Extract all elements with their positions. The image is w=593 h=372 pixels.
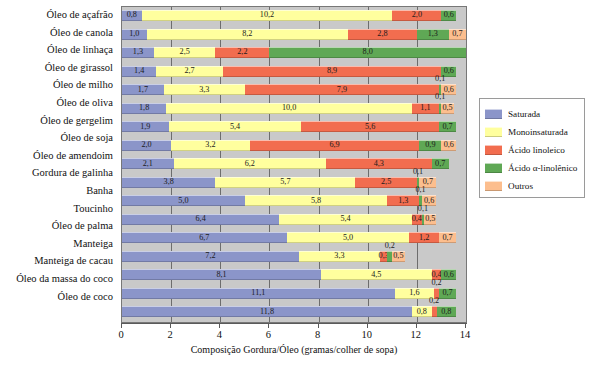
stacked-bar[interactable]: 2,03,26,90,90,6 (122, 140, 456, 151)
bar-segment[interactable]: 7,9 (245, 84, 439, 95)
stacked-bar[interactable]: 11,80,80,20,8 (122, 306, 456, 317)
bar-row[interactable]: 1,08,22,81,30,7 (122, 26, 466, 45)
bar-segment[interactable]: 0,9 (419, 140, 441, 151)
bar-segment[interactable]: 0,5 (441, 103, 453, 114)
legend-item[interactable]: Ácido α-linolênico (485, 159, 580, 177)
bar-segment[interactable]: 0,6 (441, 10, 456, 21)
bar-segment[interactable]: 1,4 (122, 66, 156, 77)
bar-segment[interactable]: 1,7 (122, 84, 164, 95)
stacked-bar[interactable]: 1,42,78,90,6 (122, 66, 456, 77)
stacked-bar[interactable]: 6,45,40,40,10,5 (122, 214, 437, 225)
bar-segment[interactable]: 0,7 (439, 121, 456, 132)
bar-segment[interactable]: 11,8 (122, 306, 412, 317)
bar-segment[interactable]: 0,4 (412, 214, 422, 225)
stacked-bar[interactable]: 1,95,45,60,7 (122, 121, 456, 132)
bar-segment[interactable]: 1,3 (122, 47, 154, 58)
stacked-bar[interactable]: 1,810,01,10,10,5 (122, 103, 454, 114)
bar-segment[interactable]: 2,2 (215, 47, 269, 58)
bar-segment[interactable]: 1,3 (417, 29, 449, 40)
bar-segment[interactable]: 4,5 (321, 269, 432, 280)
bar-segment[interactable]: 6,9 (250, 140, 420, 151)
bar-segment[interactable]: 0,8 (122, 10, 142, 21)
bar-row[interactable]: 1,95,45,60,7 (122, 118, 466, 137)
bar-row[interactable]: 6,45,40,40,10,5 (122, 211, 466, 230)
bar-segment[interactable]: 5,6 (301, 121, 439, 132)
bar-segment[interactable]: 1,8 (122, 103, 166, 114)
bar-segment[interactable]: 10,2 (142, 10, 393, 21)
bar-segment[interactable]: 0,7 (439, 288, 456, 299)
bar-segment[interactable]: 2,5 (154, 47, 215, 58)
stacked-bar[interactable]: 8,14,50,40,6 (122, 269, 456, 280)
bar-segment[interactable]: 5,8 (245, 195, 388, 206)
bar-segment[interactable]: 2,0 (122, 140, 171, 151)
bar-segment[interactable]: 6,2 (174, 158, 326, 169)
bar-segment[interactable]: 0,8 (412, 306, 432, 317)
bar-segment[interactable]: 0,6 (441, 140, 456, 151)
bar-segment[interactable]: 0,5 (392, 251, 404, 262)
stacked-bar[interactable]: 11,11,60,20,7 (122, 288, 456, 299)
bar-value-label: 5,4 (230, 123, 240, 131)
bar-row[interactable]: 1,32,52,28,0 (122, 44, 466, 63)
stacked-bar[interactable]: 6,75,01,20,7 (122, 232, 456, 243)
bar-segment[interactable]: 1,0 (122, 29, 147, 40)
bar-segment[interactable]: 5,7 (215, 177, 355, 188)
legend-item[interactable]: Outros (485, 177, 580, 195)
bar-row[interactable]: 8,14,50,40,6 (122, 266, 466, 285)
bar-segment[interactable]: 8,9 (223, 66, 442, 77)
bar-segment[interactable]: 2,0 (392, 10, 441, 21)
bar-segment[interactable]: 1,2 (409, 232, 438, 243)
bar-row[interactable]: 5,05,81,30,10,6 (122, 192, 466, 211)
bar-segment[interactable]: 0,5 (424, 214, 436, 225)
legend-item[interactable]: Monoinsaturada (485, 123, 580, 141)
stacked-bar[interactable]: 1,08,22,81,30,7 (122, 29, 466, 40)
bar-segment[interactable]: 3,3 (164, 84, 245, 95)
bar-segment[interactable]: 10,0 (166, 103, 412, 114)
bar-segment[interactable]: 0,6 (441, 269, 456, 280)
bar-row[interactable]: 2,03,26,90,90,6 (122, 137, 466, 156)
bar-row[interactable]: 6,75,01,20,7 (122, 229, 466, 248)
bar-segment[interactable]: 5,0 (122, 195, 245, 206)
bar-segment[interactable]: 0,7 (449, 29, 466, 40)
bar-segment[interactable]: 3,3 (299, 251, 380, 262)
legend-item[interactable]: Saturada (485, 105, 580, 123)
bar-row[interactable]: 7,23,30,30,20,5 (122, 248, 466, 267)
bar-segment[interactable]: 7,2 (122, 251, 299, 262)
stacked-bar[interactable]: 1,32,52,28,0 (122, 47, 466, 58)
stacked-bar[interactable]: 5,05,81,30,10,6 (122, 195, 437, 206)
bar-segment[interactable]: 3,2 (171, 140, 250, 151)
bar-row[interactable]: 0,810,22,00,6 (122, 7, 466, 26)
bar-segment[interactable]: 5,4 (169, 121, 302, 132)
bar-segment[interactable]: 0,7 (432, 158, 449, 169)
bar-row[interactable]: 1,73,37,90,10,6 (122, 81, 466, 100)
bar-segment[interactable]: 2,8 (348, 29, 417, 40)
bar-row[interactable]: 1,42,78,90,6 (122, 63, 466, 82)
bar-segment[interactable]: 6,4 (122, 214, 279, 225)
bar-segment[interactable]: 8,0 (269, 47, 466, 58)
legend-label: Outros (508, 181, 533, 191)
bar-segment[interactable]: 0,7 (439, 232, 456, 243)
bar-segment[interactable]: 2,7 (156, 66, 222, 77)
stacked-bar[interactable]: 7,23,30,30,20,5 (122, 251, 405, 262)
bar-segment[interactable]: 5,4 (279, 214, 412, 225)
stacked-bar[interactable]: 0,810,22,00,6 (122, 10, 456, 21)
bar-row[interactable]: 11,11,60,20,7 (122, 285, 466, 304)
bar-segment[interactable]: 0,8 (437, 306, 457, 317)
bar-segment[interactable]: 0,3 (380, 251, 387, 262)
bar-segment[interactable]: 11,1 (122, 288, 395, 299)
bar-segment[interactable]: 8,1 (122, 269, 321, 280)
stacked-bar[interactable]: 1,73,37,90,10,6 (122, 84, 456, 95)
bar-row[interactable]: 1,810,01,10,10,5 (122, 100, 466, 119)
bar-row[interactable]: 11,80,80,20,8 (122, 303, 466, 322)
bar-segment[interactable]: 1,3 (387, 195, 419, 206)
legend-item[interactable]: Ácido linoleico (485, 141, 580, 159)
bar-segment[interactable]: 3,8 (122, 177, 215, 188)
stacked-bar[interactable]: 2,16,24,30,7 (122, 158, 449, 169)
bar-segment[interactable]: 6,7 (122, 232, 287, 243)
bar-segment[interactable]: 1,9 (122, 121, 169, 132)
bar-segment[interactable]: 2,5 (355, 177, 416, 188)
bar-segment[interactable]: 2,1 (122, 158, 174, 169)
stacked-bar[interactable]: 3,85,72,50,10,7 (122, 177, 437, 188)
bar-segment[interactable]: 8,2 (147, 29, 348, 40)
bar-segment[interactable]: 1,1 (412, 103, 439, 114)
bar-value-label: 0,6 (444, 11, 454, 19)
